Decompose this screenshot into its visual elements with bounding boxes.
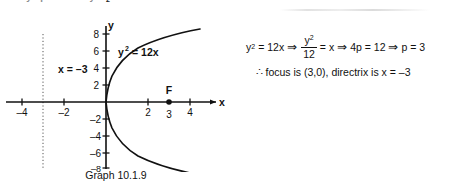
focus-point-marker xyxy=(166,99,172,105)
curve-equation-base: y xyxy=(118,46,124,58)
y-tick-label-6: 6 xyxy=(93,46,99,57)
fraction-numerator: y2 xyxy=(302,35,315,47)
y-axis-label: y xyxy=(108,19,114,31)
directrix-label: x = –3 xyxy=(58,63,88,75)
clipped-header-strip: Asymptotes are y = 2 xyxy=(0,0,452,12)
equals-x: = x xyxy=(320,42,334,53)
curve-equation-rest: = 12x xyxy=(132,46,159,58)
fraction-denominator: 12 xyxy=(301,48,317,60)
fraction-y-squared-over-12: y2 12 xyxy=(301,35,317,59)
curve-equation-exponent: 2 xyxy=(125,45,129,52)
clipped-header-fragment: Asymptotes are y = xyxy=(14,0,103,2)
lhs-rest: = 12x xyxy=(258,42,284,53)
x-tick-label-neg2: –2 xyxy=(58,107,70,118)
fraction-numerator-exponent: 2 xyxy=(310,34,314,41)
focus-label: F xyxy=(166,84,173,96)
focus-tick-label: 3 xyxy=(166,109,172,120)
graph-figure: y x –4 –2 2 4 8 6 4 2 –2 –4 –6 –8 F 3 x … xyxy=(0,12,232,192)
y-tick-label-2: 2 xyxy=(93,80,99,91)
y-tick-label-8: 8 xyxy=(93,29,99,40)
graph-caption: Graph 10.1.9 xyxy=(0,169,232,181)
y-tick-label-neg4: –4 xyxy=(90,131,102,142)
conclusion-line: ∴focus is (3,0), directrix is x = –3 xyxy=(256,67,452,78)
term-p-equals-3: p = 3 xyxy=(401,42,425,53)
parabola-upper-branch xyxy=(106,29,200,102)
x-axis-arrowhead xyxy=(210,99,216,104)
implies-arrow-3: ⇒ xyxy=(385,41,401,53)
solution-working: y2= 12x ⇒ y2 12 = x ⇒ 4p = 12 ⇒ p = 3 ∴f… xyxy=(246,36,452,78)
therefore-symbol: ∴ xyxy=(256,66,264,78)
conclusion-text: focus is (3,0), directrix is x = –3 xyxy=(266,66,411,78)
implies-arrow-1: ⇒ xyxy=(284,41,300,53)
worksheet-page: Asymptotes are y = 2 xyxy=(0,0,452,192)
y-tick-label-4: 4 xyxy=(93,63,99,74)
y-tick-label-neg6: –6 xyxy=(90,148,102,159)
clipped-header-smudge xyxy=(280,9,430,11)
parabola-plot: y x –4 –2 2 4 8 6 4 2 –2 –4 –6 –8 F 3 x … xyxy=(0,12,232,172)
term-4p-equals-12: 4p = 12 xyxy=(350,42,385,53)
curve-equation-label: y 2 = 12x xyxy=(118,45,159,58)
implies-arrow-2: ⇒ xyxy=(334,41,350,53)
x-tick-label-2: 2 xyxy=(145,107,151,118)
x-tick-label-4: 4 xyxy=(187,107,193,118)
clipped-header-text: Asymptotes are y = 2 xyxy=(14,0,110,3)
x-tick-label-neg4: –4 xyxy=(16,107,28,118)
clipped-header-denominator: 2 xyxy=(106,0,110,3)
parabola-lower-branch xyxy=(106,102,200,172)
x-axis-label: x xyxy=(219,96,225,108)
y-tick-label-neg2: –2 xyxy=(90,114,102,125)
derivation-line: y2= 12x ⇒ y2 12 = x ⇒ 4p = 12 ⇒ p = 3 xyxy=(246,36,452,58)
